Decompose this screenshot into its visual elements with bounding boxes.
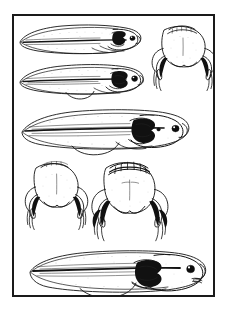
figure-tadpole-lateral-stage-1 [20,25,141,54]
figure-tadpole-lateral-stage-2 [20,65,143,99]
plate-drawing-canvas [14,16,213,295]
plate-border [12,14,215,297]
figure-froglet-dorsal-stage-3 [92,162,168,241]
figure-froglet-dorsal-stage-1 [152,26,213,91]
figure-froglet-dorsal-stage-2 [25,161,88,229]
figure-tadpole-lateral-stage-4 [30,251,206,295]
figure-tadpole-lateral-stage-3 [22,110,189,155]
illustration-plate [0,0,228,323]
